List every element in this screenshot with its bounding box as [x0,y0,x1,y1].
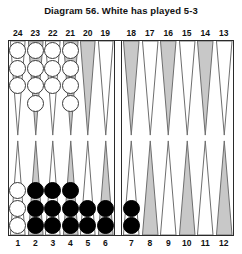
point-triangle-15 [178,41,197,138]
point-5[interactable] [79,138,97,235]
point-11[interactable] [196,138,215,235]
point-6[interactable] [97,138,115,235]
checker-white[interactable] [9,200,26,217]
point-14[interactable] [196,41,215,138]
point-number-1: 1 [9,238,27,249]
quadrant-top-right [122,41,233,138]
point-number-23: 23 [27,28,45,39]
point-triangle-8 [141,138,160,235]
checker-white[interactable] [62,77,79,94]
board-half-left [9,41,114,235]
point-2[interactable] [27,138,45,235]
point-numbers-bottom: 123456789101112 [9,238,233,249]
checker-white[interactable] [44,42,61,59]
diagram-root: Diagram 56. White has played 5-3 2423222… [0,0,242,254]
diagram-title: Diagram 56. White has played 5-3 [0,5,242,16]
point-number-5: 5 [79,238,97,249]
point-19[interactable] [97,41,115,138]
backgammon-board [8,40,234,236]
point-8[interactable] [141,138,160,235]
checker-white[interactable] [9,42,26,59]
board-bar[interactable] [114,41,122,235]
point-number-24: 24 [9,28,27,39]
point-18[interactable] [122,41,141,138]
point-triangle-18 [122,41,141,138]
point-triangle-14 [196,41,215,138]
checker-white[interactable] [44,60,61,77]
checker-stack-4[interactable] [62,138,80,235]
point-number-9: 9 [159,238,178,249]
point-1[interactable] [9,138,27,235]
checker-black[interactable] [44,217,61,234]
point-number-7: 7 [122,238,141,249]
checker-stack-21[interactable] [62,41,80,138]
checker-white[interactable] [62,42,79,59]
checker-stack-6[interactable] [97,138,115,235]
checker-stack-3[interactable] [44,138,62,235]
point-13[interactable] [215,41,234,138]
checker-white[interactable] [9,77,26,94]
point-21[interactable] [62,41,80,138]
point-23[interactable] [27,41,45,138]
checker-white[interactable] [62,95,79,112]
checker-stack-1[interactable] [9,138,27,235]
checker-white[interactable] [9,60,26,77]
checker-black[interactable] [62,217,79,234]
checker-stack-5[interactable] [79,138,97,235]
point-triangle-9 [159,138,178,235]
point-17[interactable] [141,41,160,138]
checker-white[interactable] [27,42,44,59]
point-number-3: 3 [44,238,62,249]
checker-black[interactable] [79,217,96,234]
point-9[interactable] [159,138,178,235]
checker-white[interactable] [62,60,79,77]
point-number-22: 22 [44,28,62,39]
quadrant-bottom-right [122,138,233,235]
point-triangle-13 [215,41,234,138]
point-number-2: 2 [27,238,45,249]
point-number-10: 10 [178,238,197,249]
checker-stack-7[interactable] [122,138,141,235]
point-22[interactable] [44,41,62,138]
checker-white[interactable] [27,77,44,94]
checker-black[interactable] [97,217,114,234]
checker-black[interactable] [79,200,96,217]
point-number-21: 21 [62,28,80,39]
point-number-14: 14 [196,28,215,39]
point-7[interactable] [122,138,141,235]
checker-white[interactable] [9,217,26,234]
checker-black[interactable] [123,217,140,234]
checker-stack-24[interactable] [9,41,27,138]
point-4[interactable] [62,138,80,235]
point-triangle-16 [159,41,178,138]
checker-black[interactable] [44,182,61,199]
point-triangle-19 [97,41,115,138]
point-number-12: 12 [215,238,234,249]
checker-black[interactable] [27,217,44,234]
point-triangle-10 [178,138,197,235]
point-12[interactable] [215,138,234,235]
point-15[interactable] [178,41,197,138]
checker-black[interactable] [27,182,44,199]
checker-white[interactable] [44,77,61,94]
point-16[interactable] [159,41,178,138]
point-3[interactable] [44,138,62,235]
checker-black[interactable] [27,200,44,217]
point-triangle-17 [141,41,160,138]
checker-stack-22[interactable] [44,41,62,138]
point-20[interactable] [79,41,97,138]
checker-black[interactable] [44,200,61,217]
quadrant-bottom-left [9,138,114,235]
checker-stack-23[interactable] [27,41,45,138]
checker-black[interactable] [62,200,79,217]
checker-white[interactable] [27,60,44,77]
point-24[interactable] [9,41,27,138]
checker-black[interactable] [123,200,140,217]
point-triangle-11 [196,138,215,235]
checker-black[interactable] [97,200,114,217]
checker-stack-2[interactable] [27,138,45,235]
checker-white[interactable] [9,182,26,199]
checker-black[interactable] [62,182,79,199]
checker-white[interactable] [27,95,44,112]
point-10[interactable] [178,138,197,235]
